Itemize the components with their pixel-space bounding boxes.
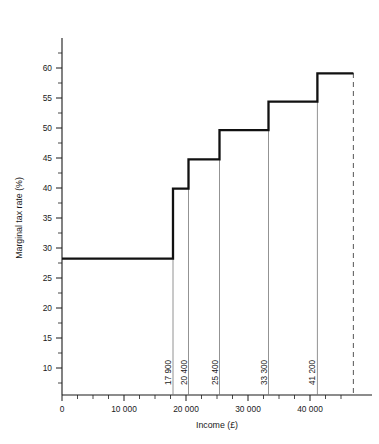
- threshold-label-33300: 33 300: [260, 360, 269, 385]
- y-tick-label: 10: [43, 363, 53, 373]
- y-tick-label: 50: [43, 123, 53, 133]
- y-tick-label: 45: [43, 153, 53, 163]
- y-axis-title: Marginal tax rate (%): [14, 177, 24, 259]
- chart-svg: 60 55 50 45 40 35 30 25 20 15 10: [0, 0, 379, 444]
- x-tick-label: 20 000: [173, 404, 199, 414]
- y-tick-label: 35: [43, 213, 53, 223]
- chart-background: [0, 0, 379, 444]
- threshold-label-20400: 20 400: [180, 360, 189, 385]
- y-tick-label: 30: [43, 243, 53, 253]
- y-tick-label: 55: [43, 93, 53, 103]
- x-tick-label: 10 000: [111, 404, 137, 414]
- y-tick-label: 60: [43, 63, 53, 73]
- threshold-label-17900: 17 900: [164, 360, 173, 385]
- x-axis-title: Income (£): [196, 420, 238, 430]
- x-tick-label: 30 000: [235, 404, 261, 414]
- y-tick-label: 25: [43, 273, 53, 283]
- y-tick-label: 20: [43, 303, 53, 313]
- threshold-label-25400: 25 400: [211, 360, 220, 385]
- x-tick-label: 40 000: [297, 404, 323, 414]
- marginal-tax-rate-chart: 60 55 50 45 40 35 30 25 20 15 10: [0, 0, 379, 444]
- y-tick-label: 40: [43, 183, 53, 193]
- x-tick-label: 0: [60, 404, 65, 414]
- threshold-label-41200: 41 200: [308, 360, 317, 385]
- y-tick-label: 15: [43, 333, 53, 343]
